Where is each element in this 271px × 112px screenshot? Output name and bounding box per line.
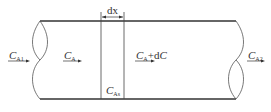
label-bulk-sub: A bbox=[71, 56, 75, 62]
left-break-curve bbox=[33, 21, 48, 99]
label-outlet-sub: A2 bbox=[255, 56, 262, 62]
label-element-outlet-suffix-var: C bbox=[159, 49, 166, 61]
label-surface-concentration: CAs bbox=[106, 85, 120, 97]
tube-diagram: dx CA1 CA CA+dC CA2 CAs bbox=[0, 0, 271, 112]
dx-arrow-right-icon bbox=[119, 16, 123, 19]
label-dx: dx bbox=[107, 5, 118, 16]
dx-arrow-left-icon bbox=[102, 16, 106, 19]
label-bulk-concentration: CA bbox=[64, 50, 76, 62]
label-inlet-sub: A1 bbox=[16, 56, 23, 62]
label-outlet-concentration: CA2 bbox=[248, 50, 263, 62]
label-element-outlet-suffix: +d bbox=[148, 49, 160, 61]
label-element-outlet-concentration: CA+dC bbox=[136, 50, 167, 62]
label-inlet-concentration: CA1 bbox=[9, 50, 24, 62]
right-break-curve bbox=[229, 21, 244, 99]
label-surface-sub: As bbox=[113, 91, 120, 97]
